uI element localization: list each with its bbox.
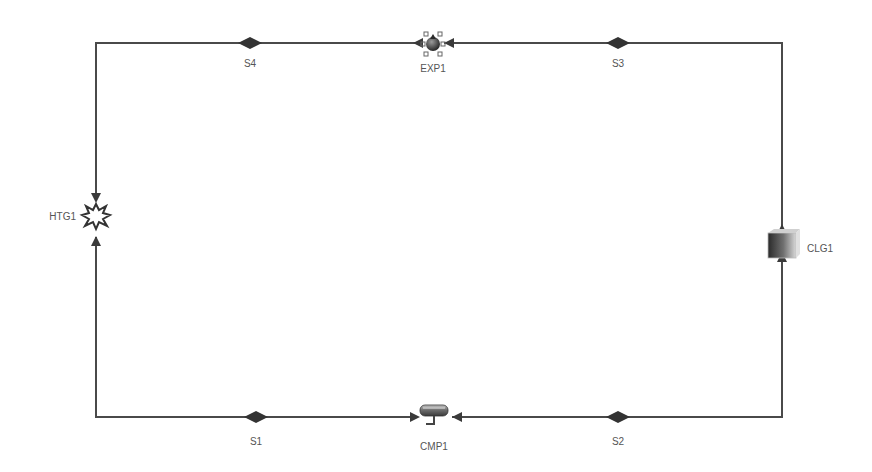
block-label-exp1: EXP1 bbox=[420, 63, 446, 74]
stream-label-s3: S3 bbox=[612, 58, 624, 69]
cooler-icon[interactable] bbox=[768, 229, 800, 258]
stream-label-s4: S4 bbox=[244, 58, 256, 69]
block-label-clg1: CLG1 bbox=[807, 243, 833, 254]
stream-label-s1: S1 bbox=[250, 436, 262, 447]
stream-marker-s4-icon[interactable] bbox=[238, 37, 262, 49]
stream-marker-s1-icon[interactable] bbox=[244, 411, 268, 423]
stream-label-s2: S2 bbox=[612, 436, 624, 447]
compressor-icon[interactable] bbox=[420, 405, 448, 424]
stream-s1-line[interactable] bbox=[91, 236, 420, 422]
stream-marker-s3-icon[interactable] bbox=[606, 37, 630, 49]
stream-s2-line[interactable] bbox=[452, 252, 787, 422]
stream-marker-s2-icon[interactable] bbox=[606, 411, 630, 423]
heater-burst-icon[interactable] bbox=[82, 204, 110, 229]
block-label-cmp1: CMP1 bbox=[420, 441, 448, 452]
stream-s4-line[interactable] bbox=[91, 38, 423, 203]
expander-valve-icon[interactable] bbox=[421, 32, 445, 56]
block-label-htg1: HTG1 bbox=[49, 211, 76, 222]
